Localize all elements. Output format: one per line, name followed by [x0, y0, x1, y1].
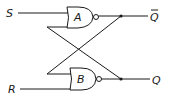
junction-dot-qbar [119, 14, 122, 17]
gate-b-inversion-bubble [97, 77, 102, 82]
gate-a-label: A [73, 11, 82, 24]
gate-a: A [67, 7, 99, 28]
input-r-label: R [8, 83, 16, 96]
junction-dot-q [119, 77, 122, 80]
gate-a-inversion-bubble [94, 15, 99, 20]
output-q-label: Q [152, 74, 161, 87]
sr-latch-diagram: A B S R Q Q [0, 0, 170, 98]
gate-b: B [70, 68, 102, 90]
output-qbar-label: Q [150, 11, 159, 24]
input-s-label: S [6, 7, 13, 20]
gate-b-label: B [77, 73, 85, 86]
